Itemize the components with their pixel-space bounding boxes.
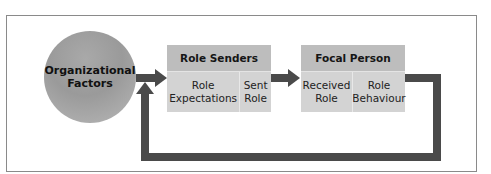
- role-senders-title: Role Senders: [167, 45, 271, 71]
- role-behaviour-cell: Role Behaviour: [352, 72, 405, 112]
- focal-person-box: Focal Person Received Role Role Behaviou…: [301, 45, 405, 111]
- organizational-factors-node: Organizational Factors: [44, 31, 136, 123]
- sent-role-cell: Sent Role: [239, 72, 271, 112]
- organizational-factors-label: Organizational Factors: [44, 64, 135, 90]
- role-expectations-cell: Role Expectations: [167, 72, 239, 112]
- role-senders-box: Role Senders Role Expectations Sent Role: [167, 45, 271, 111]
- focal-person-title: Focal Person: [301, 45, 405, 71]
- received-role-cell: Received Role: [301, 72, 352, 112]
- arrow-org-to-senders: [136, 69, 167, 87]
- arrow-senders-to-focal: [271, 69, 300, 87]
